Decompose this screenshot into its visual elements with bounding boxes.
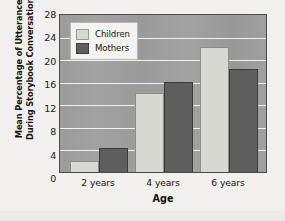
x-axis-tick-labels: 2 years 4 years 6 years: [59, 177, 267, 191]
bar-children-6-years: [200, 47, 229, 172]
y-tick-20: 20: [30, 55, 56, 66]
legend-entry-children: Children: [76, 27, 130, 41]
x-tick-2-years: 2 years: [81, 177, 114, 188]
children-swatch-icon: [76, 29, 89, 40]
x-tick-4-years: 4 years: [146, 177, 179, 188]
plot-area: Children Mothers: [59, 14, 267, 173]
legend-label-mothers: Mothers: [95, 43, 129, 53]
x-axis-title: Age: [59, 193, 267, 204]
y-tick-28: 28: [30, 9, 56, 20]
bar-group-6-years: [198, 15, 260, 172]
x-tick-6-years: 6 years: [211, 177, 244, 188]
y-tick-4: 4: [30, 149, 56, 160]
bar-mothers-2-years: [99, 148, 128, 172]
bar-group-4-years: [133, 15, 195, 172]
bar-children-4-years: [135, 93, 164, 172]
y-tick-16: 16: [30, 79, 56, 90]
y-tick-8: 8: [30, 126, 56, 137]
bar-mothers-4-years: [164, 82, 193, 172]
y-axis-tick-labels: 0 4 8 12 16 20 24 28: [30, 14, 56, 178]
y-tick-24: 24: [30, 32, 56, 43]
y-tick-0: 0: [30, 173, 56, 184]
mothers-swatch-icon: [76, 43, 89, 54]
legend-label-children: Children: [95, 29, 130, 39]
bar-mothers-6-years: [229, 69, 258, 172]
legend-entry-mothers: Mothers: [76, 41, 130, 55]
bar-children-2-years: [70, 161, 99, 172]
chart-legend: Children Mothers: [70, 22, 138, 60]
y-tick-12: 12: [30, 102, 56, 113]
chart-figure: Mean Percentage of Utterances During Sto…: [0, 0, 285, 221]
paper-edge: [0, 211, 285, 221]
y-axis-title-line1: Mean Percentage of Utterances: [14, 0, 24, 138]
